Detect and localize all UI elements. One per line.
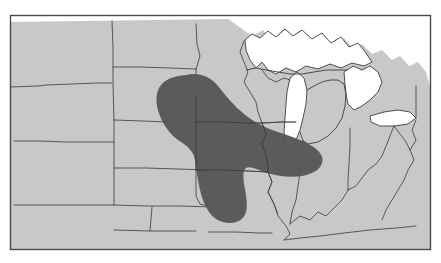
map-figure [0,0,441,263]
map-canvas [0,0,441,263]
